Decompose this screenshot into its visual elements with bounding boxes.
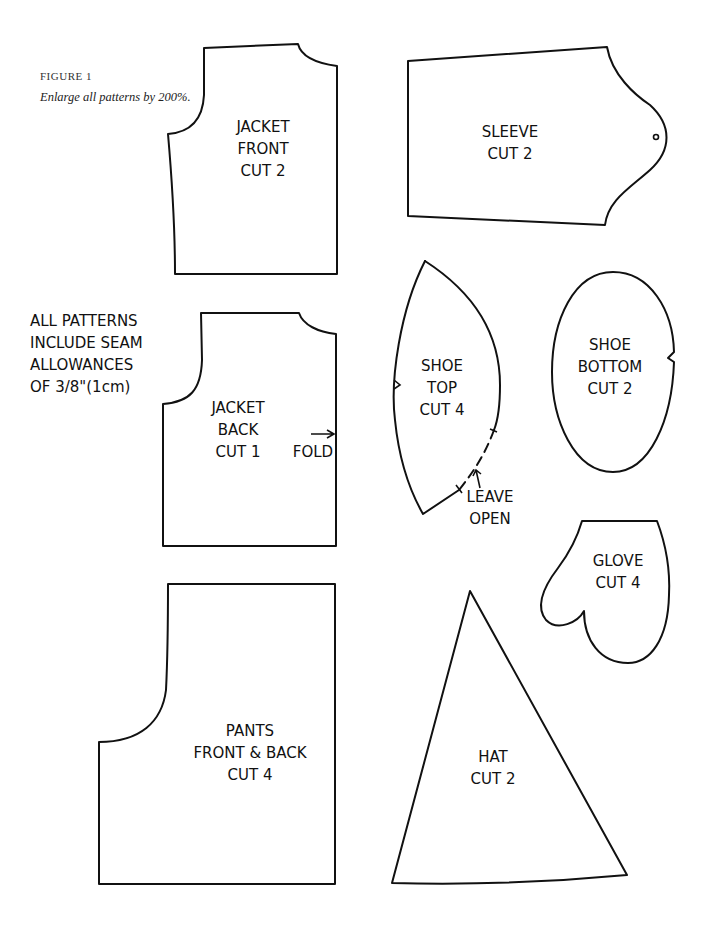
label-line: OPEN [460,508,520,530]
pattern-drawing [0,0,716,930]
seam-allowance-note: ALL PATTERNS INCLUDE SEAM ALLOWANCES OF … [30,310,143,398]
label-line: FRONT [218,138,308,160]
label-line: BACK [198,419,278,441]
label-line: JACKET [198,397,278,419]
label-line: HAT [458,746,528,768]
label-line: CUT 2 [218,160,308,182]
glove-label: GLOVE CUT 4 [578,550,658,594]
label-line: CUT 2 [465,143,555,165]
label-line: CUT 4 [407,399,477,421]
label-line: JACKET [218,116,308,138]
label-line: CUT 4 [578,572,658,594]
hat-label: HAT CUT 2 [458,746,528,790]
leave-open-label: LEAVE OPEN [460,486,520,530]
shoe-top-open-edge [459,430,494,490]
label-line: SHOE [565,334,655,356]
label-line: FRONT & BACK [180,742,320,764]
pants-label: PANTS FRONT & BACK CUT 4 [180,720,320,786]
note-line: ALL PATTERNS [30,310,143,332]
fold-label: FOLD [288,441,338,463]
sleeve-notch-dot [654,135,659,140]
sleeve-label: SLEEVE CUT 2 [465,121,555,165]
jacket-front-label: JACKET FRONT CUT 2 [218,116,308,182]
label-line: CUT 2 [565,378,655,400]
note-line: OF 3/8"(1cm) [30,376,143,398]
note-line: INCLUDE SEAM [30,332,143,354]
label-line: PANTS [180,720,320,742]
shoe-bottom-label: SHOE BOTTOM CUT 2 [565,334,655,400]
label-line: CUT 2 [458,768,528,790]
label-line: GLOVE [578,550,658,572]
label-line: SLEEVE [465,121,555,143]
shoe-top-label: SHOE TOP CUT 4 [407,355,477,421]
label-line: TOP [407,377,477,399]
fold-arrow-icon [311,430,334,438]
label-line: CUT 4 [180,764,320,786]
label-line: CUT 1 [198,441,278,463]
note-line: ALLOWANCES [30,354,143,376]
jacket-back-label: JACKET BACK CUT 1 [198,397,278,463]
label-line: BOTTOM [565,356,655,378]
hat-outline [392,591,627,884]
label-line: LEAVE [460,486,520,508]
label-line: SHOE [407,355,477,377]
